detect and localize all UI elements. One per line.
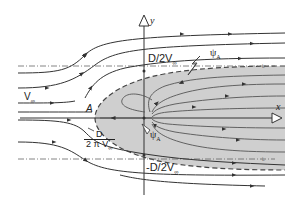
upper-intercept-point [143,70,146,73]
lower-asymptote-text: -D/2V [146,161,174,173]
stagnation-offset-label: D 2 π V∞ [84,130,115,151]
upper-asymptote-end-mark: L [262,63,265,69]
freestream-velocity-label: V∞ [24,92,35,104]
stagnation-point-label: A [86,104,93,114]
psi-subscript: A [216,54,220,60]
lower-asymptote-end-mark: L [262,156,265,162]
arrow-icon [156,103,157,104]
psi-subscript: A [156,136,160,142]
upper-asymptote-label: D/2V∞ [148,53,177,66]
fraction-denominator-subscript: ∞ [108,145,112,151]
lower-asymptote-subscript: ∞ [174,169,178,175]
stagnation-offset-fraction: D 2 π V∞ [84,130,115,151]
freestream-subscript: ∞ [31,98,35,104]
rankine-half-body-diagram: L L [0,0,287,202]
fraction-denominator: 2 π V∞ [84,140,115,151]
y-axis-arrowhead-icon [139,15,149,26]
lower-intercept-point [143,154,146,157]
psi-a-lower-label: ψA [150,130,161,142]
fraction-denominator-text: 2 π V [86,139,108,149]
upper-asymptote-subscript: ∞ [172,60,176,66]
source-point [143,117,146,120]
streamline [85,54,86,55]
psi-a-upper-label: ψA [210,48,221,60]
upper-asymptote-text: D/2V [148,52,172,64]
arrow-icon [80,74,82,76]
x-axis-label: x [276,102,280,112]
y-axis-label: y [150,16,154,26]
streamline [120,175,265,186]
freestream-symbol: V [24,91,31,102]
lower-asymptote-label: -D/2V∞ [146,162,178,175]
